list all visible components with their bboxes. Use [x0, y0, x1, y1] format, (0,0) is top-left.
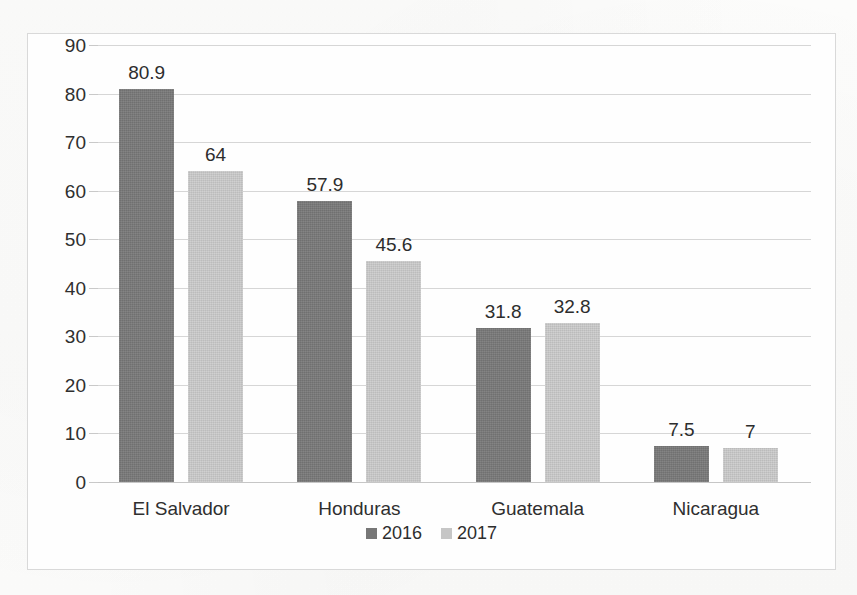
legend-item-2017[interactable]: 2017 [441, 524, 497, 542]
bar-value-label: 7.5 [668, 420, 694, 439]
bar-2017[interactable]: 45.6 [366, 261, 421, 482]
y-axis-tick-label: 30 [65, 327, 86, 346]
x-axis-category-label: Nicaragua [673, 499, 760, 518]
y-axis-tick-mark [89, 239, 98, 240]
bar-value-label: 80.9 [128, 63, 165, 82]
bar-group: 7.57Nicaragua [633, 45, 811, 482]
y-axis-tick-mark [89, 191, 98, 192]
y-axis-tick-mark [89, 433, 98, 434]
y-axis-tick-label: 70 [65, 133, 86, 152]
bar-group: 31.832.8Guatemala [455, 45, 633, 482]
legend-label: 2017 [457, 524, 497, 542]
bar-2016[interactable]: 31.8 [476, 328, 531, 482]
y-axis-tick-label: 50 [65, 230, 86, 249]
bar-value-label: 31.8 [485, 302, 522, 321]
gridline [98, 482, 811, 483]
plot-area: 0102030405060708090 80.964El Salvador57.… [98, 45, 811, 482]
y-axis-tick-label: 80 [65, 84, 86, 103]
y-axis-tick-mark [89, 482, 98, 483]
bar-group: 80.964El Salvador [98, 45, 276, 482]
bar-2016[interactable]: 57.9 [297, 201, 352, 482]
bar-value-label: 45.6 [375, 235, 412, 254]
y-axis-tick-mark [89, 142, 98, 143]
bar-2017[interactable]: 64 [188, 171, 243, 482]
legend-swatch-icon [441, 528, 452, 539]
y-axis-tick-label: 90 [65, 36, 86, 55]
y-axis-tick-mark [89, 45, 98, 46]
legend-swatch-icon [366, 528, 377, 539]
bar-2016[interactable]: 7.5 [654, 446, 709, 482]
y-axis-tick-label: 40 [65, 278, 86, 297]
bar-value-label: 7 [745, 422, 756, 441]
bar-group: 57.945.6Honduras [276, 45, 454, 482]
y-axis-tick-label: 10 [65, 424, 86, 443]
y-axis-tick-mark [89, 385, 98, 386]
chart-legend: 20162017 [28, 524, 835, 542]
y-axis-tick-mark [89, 288, 98, 289]
chart-frame: 0102030405060708090 80.964El Salvador57.… [27, 33, 836, 570]
bar-value-label: 57.9 [306, 175, 343, 194]
x-axis-category-label: Guatemala [491, 499, 584, 518]
bar-2017[interactable]: 32.8 [545, 323, 600, 482]
y-axis-tick-label: 0 [75, 473, 86, 492]
legend-item-2016[interactable]: 2016 [366, 524, 422, 542]
bar-2016[interactable]: 80.9 [119, 89, 174, 482]
x-axis-category-label: Honduras [318, 499, 400, 518]
y-axis-tick-mark [89, 336, 98, 337]
legend-label: 2016 [382, 524, 422, 542]
y-axis-tick-label: 20 [65, 375, 86, 394]
bar-value-label: 64 [205, 145, 226, 164]
x-axis-category-label: El Salvador [133, 499, 230, 518]
y-axis-tick-mark [89, 94, 98, 95]
bar-value-label: 32.8 [554, 297, 591, 316]
bar-2017[interactable]: 7 [723, 448, 778, 482]
y-axis-tick-label: 60 [65, 181, 86, 200]
